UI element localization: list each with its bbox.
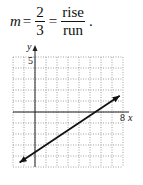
coordinate-plane: y58x xyxy=(0,0,143,185)
y-axis-label: y xyxy=(26,41,32,52)
y-axis-arrow-icon xyxy=(33,45,38,51)
x-axis-label: x xyxy=(127,112,133,123)
x-tick-label: 8 xyxy=(120,112,125,123)
y-tick-label: 5 xyxy=(28,55,33,66)
